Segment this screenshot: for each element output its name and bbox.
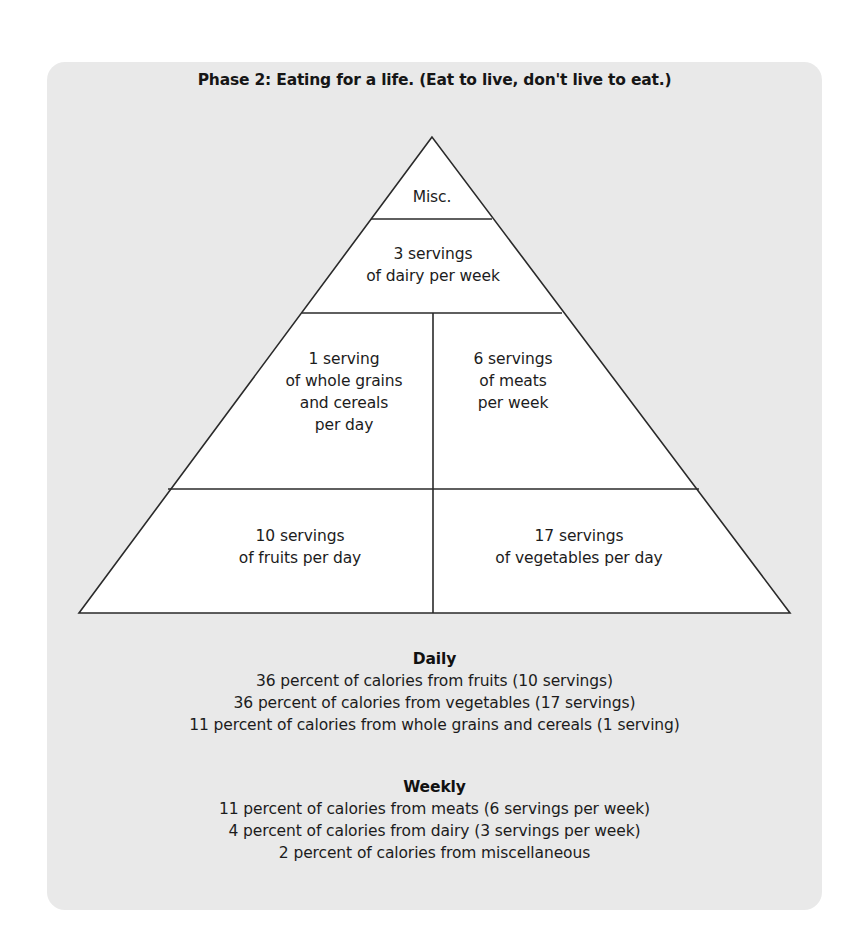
tier-vegetables-line: of vegetables per day xyxy=(450,547,708,569)
tier-vegetables-line: 17 servings xyxy=(450,525,708,547)
tier-meats-line: per week xyxy=(448,392,578,414)
tier-misc-line: Misc. xyxy=(382,186,482,208)
weekly-heading: Weekly xyxy=(47,776,822,798)
tier-grains-line: per day xyxy=(258,414,430,436)
tier-dairy-line: of dairy per week xyxy=(320,265,546,287)
tier-meats-line: 6 servings xyxy=(448,348,578,370)
tier-dairy: 3 servings of dairy per week xyxy=(320,243,546,287)
tier-grains: 1 serving of whole grains and cereals pe… xyxy=(258,348,430,436)
tier-fruits-line: of fruits per day xyxy=(190,547,410,569)
tier-meats-line: of meats xyxy=(448,370,578,392)
daily-line: 36 percent of calories from vegetables (… xyxy=(47,692,822,714)
tier-grains-line: of whole grains xyxy=(258,370,430,392)
daily-line: 11 percent of calories from whole grains… xyxy=(47,714,822,736)
tier-dairy-line: 3 servings xyxy=(320,243,546,265)
weekly-summary: Weekly 11 percent of calories from meats… xyxy=(47,776,822,864)
daily-line: 36 percent of calories from fruits (10 s… xyxy=(47,670,822,692)
tier-misc: Misc. xyxy=(382,186,482,208)
weekly-line: 4 percent of calories from dairy (3 serv… xyxy=(47,820,822,842)
daily-heading: Daily xyxy=(47,648,822,670)
tier-grains-line: and cereals xyxy=(258,392,430,414)
tier-vegetables: 17 servings of vegetables per day xyxy=(450,525,708,569)
tier-meats: 6 servings of meats per week xyxy=(448,348,578,414)
tier-fruits-line: 10 servings xyxy=(190,525,410,547)
daily-summary: Daily 36 percent of calories from fruits… xyxy=(47,648,822,736)
tier-grains-line: 1 serving xyxy=(258,348,430,370)
weekly-line: 2 percent of calories from miscellaneous xyxy=(47,842,822,864)
weekly-line: 11 percent of calories from meats (6 ser… xyxy=(47,798,822,820)
tier-fruits: 10 servings of fruits per day xyxy=(190,525,410,569)
